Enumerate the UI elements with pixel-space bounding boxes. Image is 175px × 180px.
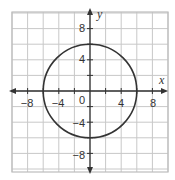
y-tick-label-4: 4 [79, 53, 85, 65]
y-axis-label: y [96, 7, 103, 21]
y-tick-label-neg4: −4 [72, 117, 85, 129]
x-tick-label-4: 4 [118, 97, 124, 109]
coordinate-plane: y x −8 −4 0 4 8 8 4 −4 −8 [0, 0, 175, 180]
origin-label: 0 [79, 94, 85, 106]
x-tick-label-8: 8 [150, 97, 156, 109]
x-tick-label-neg8: −8 [21, 97, 34, 109]
x-axis-right-arrow-icon [161, 88, 168, 94]
x-tick-label-neg4: −4 [52, 97, 65, 109]
y-tick-label-neg8: −8 [72, 149, 85, 161]
y-axis-down-arrow-icon [87, 167, 93, 174]
y-tick-label-8: 8 [79, 22, 85, 34]
x-axis-label: x [158, 73, 165, 87]
